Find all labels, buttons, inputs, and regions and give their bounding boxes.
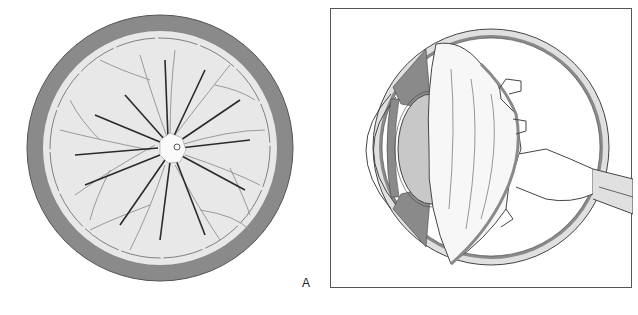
panel-a-fundus: A	[0, 0, 320, 315]
fundus-illustration	[0, 0, 320, 315]
eye-cross-section-illustration	[331, 9, 633, 289]
panel-label-a: A	[302, 276, 310, 290]
panel-b-cross-section: B	[330, 8, 632, 288]
